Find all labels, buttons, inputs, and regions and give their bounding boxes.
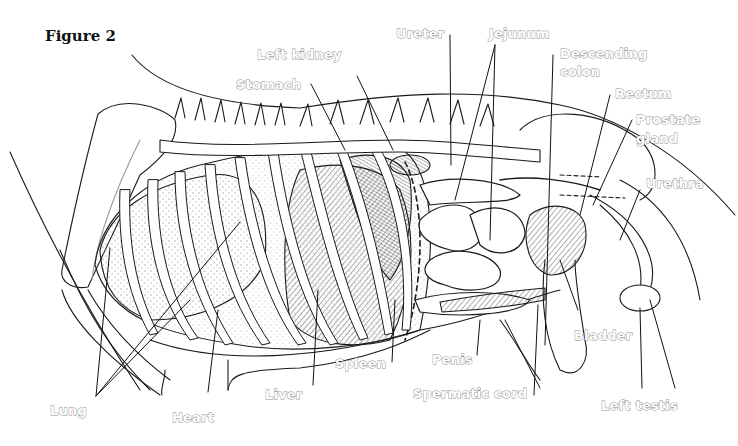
label-spermatic-cord: Spermatic cord xyxy=(413,386,527,402)
label-lung: Lung xyxy=(50,403,87,419)
urethra xyxy=(590,195,653,290)
label-descending-colon-1: Descending xyxy=(560,46,647,62)
label-penis: Penis xyxy=(432,352,473,368)
label-jejunum: Jejunum xyxy=(489,26,550,42)
label-rectum: Rectum xyxy=(615,86,672,102)
label-urethra: Urethra xyxy=(646,176,704,192)
figure-title: Figure 2 xyxy=(45,27,116,45)
label-heart: Heart xyxy=(172,410,214,426)
label-descending-colon-2: colon xyxy=(560,64,600,80)
label-prostate-2: gland xyxy=(636,131,678,147)
bladder xyxy=(526,206,586,275)
anatomy-illustration xyxy=(0,0,738,446)
label-left-testis: Left testis xyxy=(601,398,678,414)
spine xyxy=(160,98,540,162)
label-spleen: Spleen xyxy=(335,356,386,372)
label-bladder: Bladder xyxy=(574,328,632,344)
label-ureter: Ureter xyxy=(396,26,444,42)
testis xyxy=(620,285,660,311)
label-stomach: Stomach xyxy=(236,77,301,93)
label-left-kidney: Left kidney xyxy=(257,47,342,63)
left-kidney xyxy=(390,155,430,175)
label-liver: Liver xyxy=(265,387,302,403)
penis xyxy=(440,288,545,312)
label-prostate-1: Prostate xyxy=(636,112,700,128)
